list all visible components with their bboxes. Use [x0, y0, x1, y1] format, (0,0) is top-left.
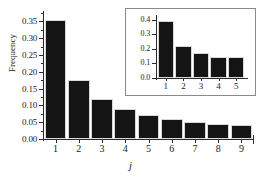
x-axis-title: j	[0, 159, 261, 171]
inset-y-tick-label-0.2: 0.2	[128, 45, 150, 53]
x-tick-label-8: 8	[216, 143, 221, 154]
bar-5	[138, 115, 160, 139]
x-tick-label-6: 6	[169, 143, 174, 154]
y-tick-label-0.30: 0.30	[22, 34, 37, 43]
inset-x-tick-label-2: 2	[181, 81, 186, 91]
y-tick-0.00	[39, 139, 44, 140]
y-tick-label-0.20: 0.20	[22, 68, 37, 77]
inset-x-tick-label-1: 1	[164, 81, 169, 91]
bar-4	[114, 109, 136, 139]
inset-x-tick-label-3: 3	[199, 81, 204, 91]
main-x-axis-end-tick	[253, 135, 254, 144]
inset-chart: 0.00.10.20.30.4 12345	[125, 8, 256, 96]
y-axis-title: Frequency	[7, 23, 17, 83]
inset-x-tick-label-5: 5	[234, 81, 239, 91]
figure-root: 0.000.050.100.150.200.250.300.35 1234567…	[0, 0, 261, 177]
inset-y-tick-label-0.4: 0.4	[128, 16, 150, 24]
inset-y-tick-label-0.3: 0.3	[128, 30, 150, 38]
inset-bar-3	[193, 53, 209, 78]
inset-x-tick-label-4: 4	[216, 81, 221, 91]
inset-y-tick-0.0	[152, 78, 157, 79]
x-tick-label-5: 5	[146, 143, 151, 154]
x-tick-label-7: 7	[192, 143, 197, 154]
bar-2	[68, 80, 90, 139]
y-tick-label-0.15: 0.15	[22, 85, 37, 94]
inset-x-axis-line	[156, 78, 248, 79]
x-tick-label-4: 4	[123, 143, 128, 154]
x-tick-label-1: 1	[53, 143, 58, 154]
y-tick-label-0.00: 0.00	[22, 135, 37, 144]
y-tick-label-0.05: 0.05	[22, 118, 37, 127]
inset-plot-area	[157, 17, 245, 78]
bar-8	[207, 124, 229, 139]
bar-6	[161, 119, 183, 139]
inset-y-tick-label-0.0: 0.0	[128, 74, 150, 82]
bar-7	[184, 122, 206, 139]
inset-bar-5	[228, 57, 244, 78]
bar-3	[91, 99, 113, 139]
inset-y-tick-label-0.1: 0.1	[128, 59, 150, 67]
y-tick-label-0.35: 0.35	[22, 17, 37, 26]
inset-bar-2	[175, 46, 191, 78]
bar-1	[45, 20, 67, 139]
x-tick-label-9: 9	[239, 143, 244, 154]
y-tick-label-0.25: 0.25	[22, 51, 37, 60]
inset-bar-4	[210, 57, 226, 78]
y-tick-label-0.10: 0.10	[22, 101, 37, 110]
bar-9	[231, 125, 253, 139]
x-tick-label-3: 3	[100, 143, 105, 154]
x-tick-label-2: 2	[76, 143, 81, 154]
inset-bar-1	[158, 21, 174, 78]
